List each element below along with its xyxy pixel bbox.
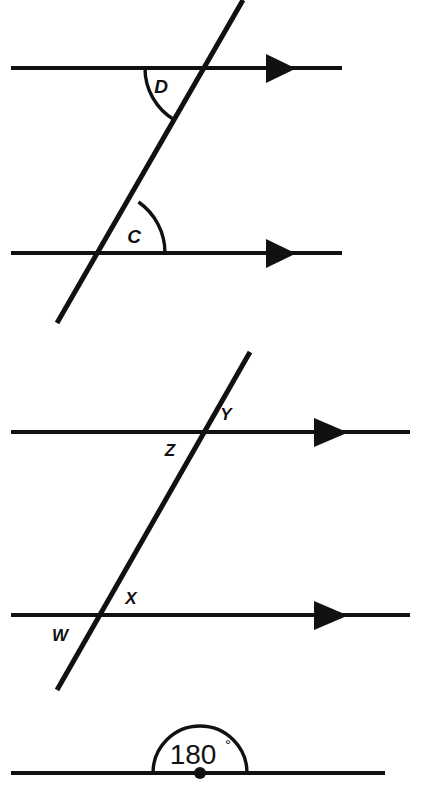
panel-straight-angle: 180 °	[11, 726, 385, 779]
panel3-degree-value: 180	[170, 739, 217, 770]
panel1-angle-c-label: C	[127, 226, 141, 247]
panel2-bottom-arrowhead-icon	[314, 601, 348, 630]
panel1-angle-d-label: D	[154, 76, 168, 97]
panel-points-wxyz: Y Z X W	[11, 352, 410, 690]
panel2-label-z: Z	[164, 441, 176, 460]
panel1-top-arrowhead-icon	[266, 54, 296, 83]
geometry-figure-root: D C Y Z X W 180 °	[0, 0, 426, 799]
panel1-transversal-line	[57, 0, 243, 323]
panel2-label-x: X	[124, 589, 138, 608]
panel2-label-w: W	[52, 626, 70, 645]
panel2-transversal-line	[57, 352, 250, 690]
panel1-bottom-arrowhead-icon	[266, 239, 296, 268]
geometry-figure: D C Y Z X W 180 °	[0, 0, 426, 799]
panel3-degree-symbol-icon: °	[225, 736, 231, 753]
panel-angles-c-d: D C	[11, 0, 342, 323]
panel2-label-y: Y	[220, 405, 233, 424]
panel1-angle-c-arc	[139, 202, 166, 253]
panel2-top-arrowhead-icon	[314, 418, 348, 447]
